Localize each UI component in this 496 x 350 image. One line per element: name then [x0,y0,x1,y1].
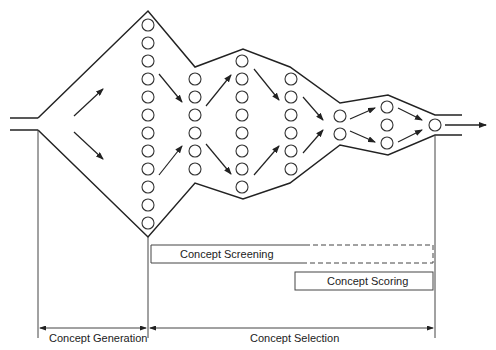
concept-circle [142,199,154,211]
phase-boundaries [38,130,435,338]
funnel-diagram [0,0,496,350]
concept-circle [285,73,297,85]
concept-circle [189,91,201,103]
concept-circle [334,128,346,140]
concept-circle [142,163,154,175]
concept-circle [285,163,297,175]
concept-circle [142,127,154,139]
concept-circle [381,119,393,131]
input-pipe [10,118,38,130]
concept-circle [142,181,154,193]
concept-circle [142,37,154,49]
concept-circle [381,101,393,113]
concept-circle [142,91,154,103]
concept-circle [381,137,393,149]
concept-circle [189,73,201,85]
concept-circle [189,109,201,121]
concept-circle [236,55,248,67]
concept-circle [142,217,154,229]
concept-circle [189,163,201,175]
flow-arrows [74,69,422,175]
concept-circle [142,55,154,67]
concept-circle [429,119,441,131]
screening-label: Concept Screening [180,248,274,260]
concept-circle [236,91,248,103]
concept-circle [285,109,297,121]
concept-circle [334,110,346,122]
selection-label: Concept Selection [250,332,339,344]
concept-circle [142,109,154,121]
concept-circle [142,19,154,31]
concept-circle [236,127,248,139]
concept-circle [189,127,201,139]
concept-circle [236,145,248,157]
concept-circle [236,163,248,175]
concept-circle [285,127,297,139]
concept-circle [285,145,297,157]
concept-circle [236,181,248,193]
concept-circle [236,109,248,121]
concept-circle [236,73,248,85]
generation-label: Concept Generation [49,332,147,344]
concept-circles [142,19,441,229]
funnel-outline [38,11,462,237]
scoring-label: Concept Scoring [327,275,408,287]
concept-circle [142,145,154,157]
concept-circle [142,73,154,85]
concept-circle [285,91,297,103]
concept-circle [189,145,201,157]
